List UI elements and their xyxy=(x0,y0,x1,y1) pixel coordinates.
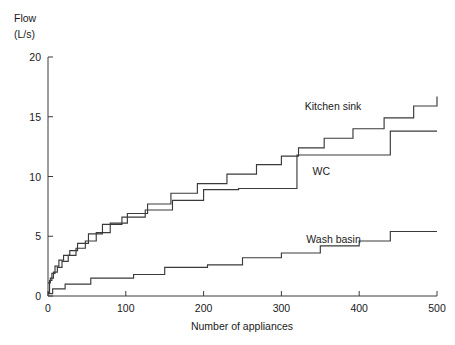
y-axis-title: Flow (L/s) xyxy=(14,12,37,40)
series-label-wc: WC xyxy=(313,165,331,177)
y-axis-title-line2: (L/s) xyxy=(14,28,35,40)
x-tick-label-0: 0 xyxy=(45,302,51,314)
flow-vs-appliances-chart: Flow (L/s) 05101520 0100200300400500 Kit… xyxy=(0,0,455,345)
x-axis-title: Number of appliances xyxy=(191,320,293,332)
series-line-wash-basin xyxy=(48,231,437,293)
x-tick-label-200: 200 xyxy=(195,302,213,314)
x-tick-label-100: 100 xyxy=(117,302,135,314)
series-layer xyxy=(48,96,437,293)
x-tick-label-400: 400 xyxy=(350,302,368,314)
x-tick-label-500: 500 xyxy=(428,302,446,314)
y-tick-label-0: 0 xyxy=(35,290,41,302)
x-tick-label-300: 300 xyxy=(273,302,291,314)
y-tick-label-10: 10 xyxy=(29,171,41,183)
y-tick-label-15: 15 xyxy=(29,111,41,123)
series-line-kitchen-sink xyxy=(48,96,437,282)
x-axis-ticks: 0100200300400500 xyxy=(45,291,446,314)
series-labels: Kitchen sinkWCWash basin xyxy=(305,100,362,246)
series-label-wash-basin: Wash basin xyxy=(306,233,361,245)
series-label-kitchen-sink: Kitchen sink xyxy=(305,100,362,112)
y-tick-label-5: 5 xyxy=(35,230,41,242)
y-axis-title-line1: Flow xyxy=(14,12,37,24)
series-line-wc xyxy=(48,131,437,292)
y-tick-label-20: 20 xyxy=(29,51,41,63)
chart-canvas: Flow (L/s) 05101520 0100200300400500 Kit… xyxy=(0,0,455,345)
y-axis-ticks: 05101520 xyxy=(29,51,53,302)
